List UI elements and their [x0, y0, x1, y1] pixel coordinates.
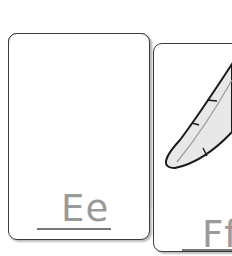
- flashcard-e: Ee: [8, 33, 150, 240]
- writing-line: [182, 249, 232, 251]
- writing-line: [37, 228, 111, 230]
- letter-label: Ee: [61, 190, 109, 227]
- feather-icon: [155, 60, 232, 180]
- letter-label: Ff: [202, 216, 232, 253]
